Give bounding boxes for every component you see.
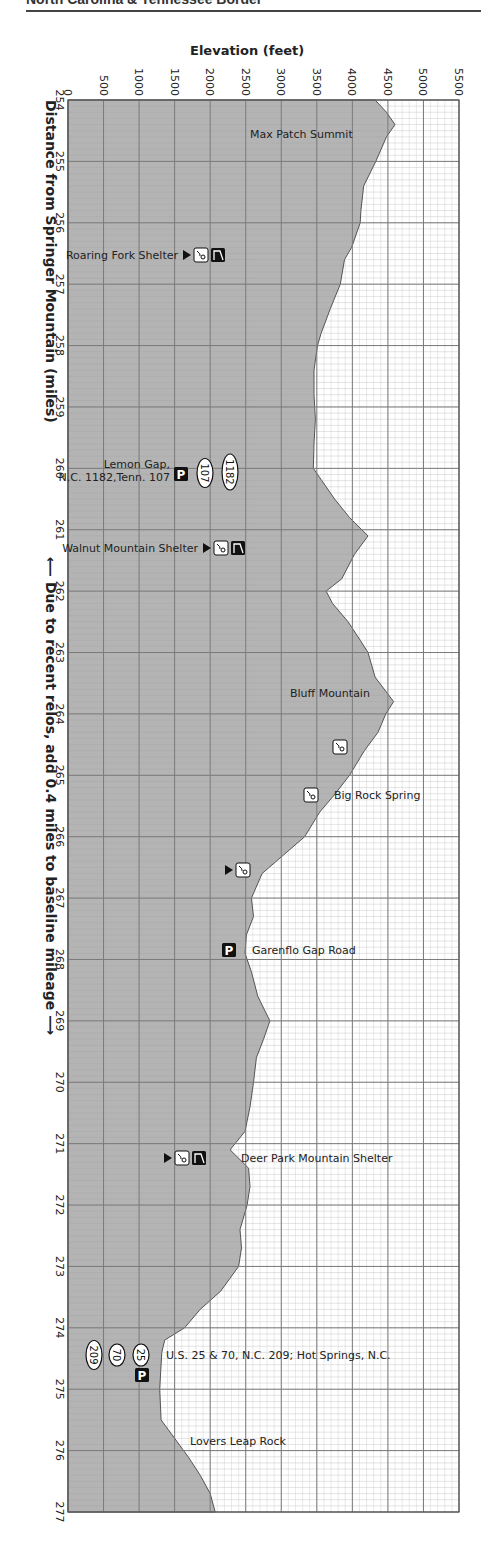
annotation (333, 740, 347, 754)
arrow-left-icon: ⟵ (43, 557, 59, 577)
annotation-label: Roaring Fork Shelter (66, 249, 179, 262)
annotation: Lovers Leap Rock (190, 1435, 287, 1448)
relo-note-text: Due to recent relos, add 0.4 miles to ba… (43, 582, 59, 1010)
mile-tick-label: 277 (53, 1502, 66, 1523)
annotation: Max Patch Summit (250, 128, 353, 141)
parking-icon: P (135, 1368, 149, 1383)
mile-tick-label: 274 (53, 1317, 66, 1338)
parking-icon: P (174, 467, 188, 482)
svg-text:107: 107 (199, 463, 210, 482)
mile-tick-label: 276 (53, 1440, 66, 1461)
route-shield-icon: 1182 (222, 454, 238, 490)
svg-text:P: P (138, 1369, 147, 1383)
elevation-tick-label: 2500 (239, 68, 252, 96)
water-icon (304, 788, 318, 802)
shelter-icon (211, 248, 225, 262)
elevation-tick-label: 2000 (203, 68, 216, 96)
water-icon (175, 1151, 189, 1165)
annotation-label: Bluff Mountain (290, 687, 370, 700)
relocation-note: ⟵ Due to recent relos, add 0.4 miles to … (43, 557, 59, 1035)
elevation-tick-label: 1000 (132, 68, 145, 96)
elevation-tick-label: 3000 (274, 68, 287, 96)
route-shield-icon: 209 (86, 1341, 102, 1370)
annotation-label: Garenflo Gap Road (252, 944, 356, 957)
elevation-tick-label: 3500 (310, 68, 323, 96)
water-icon (214, 541, 228, 555)
elevation-tick-label: 4000 (345, 68, 358, 96)
annotation-label: N.C. 1182,Tenn. 107 (59, 471, 170, 484)
distance-axis-title: Distance from Springer Mountain (miles) (43, 100, 59, 423)
svg-text:P: P (225, 944, 234, 958)
annotation: Deer Park Mountain Shelter (164, 1151, 393, 1165)
annotation-label: Lemon Gap, (104, 458, 170, 471)
svg-text:P: P (177, 468, 186, 482)
svg-text:209: 209 (88, 1345, 99, 1364)
elevation-profile-chart: 0500100015002000250030003500400045005000… (0, 0, 481, 1557)
route-shield-icon: 70 (109, 1344, 125, 1366)
mile-tick-label: 270 (53, 1072, 66, 1093)
svg-text:70: 70 (111, 1349, 122, 1362)
parking-icon: P (222, 943, 236, 958)
annotation-label: Big Rock Spring (334, 789, 420, 802)
shelter-icon (231, 541, 245, 555)
mile-tick-label: 261 (53, 519, 66, 540)
annotation: Walnut Mountain Shelter (62, 541, 245, 555)
water-icon (333, 740, 347, 754)
elevation-tick-label: 5000 (416, 68, 429, 96)
annotation-label: U.S. 25 & 70, N.C. 209; Hot Springs, N.C… (166, 1349, 391, 1362)
annotation: Bluff Mountain (290, 687, 370, 700)
annotation: Roaring Fork Shelter (66, 248, 225, 262)
svg-text:1182: 1182 (224, 459, 235, 484)
annotation-label: Max Patch Summit (250, 128, 353, 141)
annotation-label: Deer Park Mountain Shelter (241, 1152, 393, 1165)
shelter-icon (192, 1151, 206, 1165)
elevation-tick-label: 5500 (452, 68, 465, 96)
mile-tick-label: 272 (53, 1195, 66, 1216)
water-icon (236, 863, 250, 877)
annotation-label: Walnut Mountain Shelter (62, 542, 198, 555)
route-shield-icon: 107 (197, 459, 213, 488)
elevation-tick-label: 1500 (168, 68, 181, 96)
mile-tick-label: 271 (53, 1133, 66, 1154)
mile-tick-label: 273 (53, 1256, 66, 1277)
annotation-label: Lovers Leap Rock (190, 1435, 287, 1448)
elevation-tick-label: 4500 (381, 68, 394, 96)
svg-text:25: 25 (135, 1349, 146, 1362)
mile-tick-label: 275 (53, 1379, 66, 1400)
elevation-tick-label: 500 (97, 75, 110, 96)
arrow-right-icon: ⟶ (43, 1015, 59, 1035)
route-shield-icon: 25 (133, 1344, 149, 1366)
water-icon (194, 248, 208, 262)
